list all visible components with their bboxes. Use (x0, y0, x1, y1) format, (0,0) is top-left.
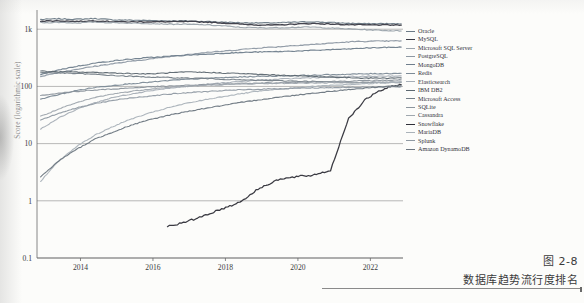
legend-item[interactable]: Oracle (406, 27, 516, 35)
legend-item[interactable]: Microsoft Access (406, 95, 516, 103)
legend-swatch-icon (406, 48, 415, 49)
y-tick-label: 10 (24, 139, 32, 148)
y-tick-label: 0.1 (23, 254, 33, 263)
legend-label: MongoDB (418, 61, 444, 69)
legend-swatch-icon (406, 90, 415, 91)
figure-caption: 图 2-8 数据库趋势流行度排名 (463, 252, 578, 287)
legend-label: Cassandra (418, 111, 443, 119)
legend-label: Amazon DynamoDB (418, 145, 470, 153)
chart-svg: 0.11101001k20142016201820202022 (0, 0, 430, 290)
legend-swatch-icon (406, 64, 415, 65)
legend-swatch-icon (406, 115, 415, 116)
legend-swatch-icon (406, 39, 415, 40)
legend-item[interactable]: MariaDB (406, 128, 516, 136)
legend-label: MariaDB (418, 128, 441, 136)
legend-swatch-icon (406, 149, 415, 150)
figure-number: 图 2-8 (463, 252, 578, 268)
x-tick-label: 2014 (73, 263, 88, 272)
y-tick-label: 100 (21, 82, 33, 91)
series-line (41, 85, 402, 177)
series-line (41, 41, 402, 77)
x-tick-label: 2016 (145, 263, 160, 272)
legend-swatch-icon (406, 140, 415, 141)
legend-label: Snowflake (418, 120, 444, 128)
legend-item[interactable]: PostgreSQL (406, 52, 516, 60)
legend-swatch-icon (406, 107, 415, 108)
legend-item[interactable]: MongoDB (406, 61, 516, 69)
legend-swatch-icon (406, 81, 415, 82)
series-line (41, 82, 402, 182)
series-line (41, 82, 402, 116)
series-line (167, 84, 401, 226)
legend-swatch-icon (406, 124, 415, 125)
x-tick-label: 2022 (363, 263, 378, 272)
legend-item[interactable]: Amazon DynamoDB (406, 145, 516, 153)
legend-label: Microsoft SQL Server (418, 44, 472, 52)
y-tick-label: 1k (24, 25, 32, 34)
legend-label: PostgreSQL (418, 52, 448, 60)
legend-item[interactable]: Redis (406, 69, 516, 77)
legend-label: Splunk (418, 137, 435, 145)
legend-swatch-icon (406, 31, 415, 32)
legend-label: Redis (418, 69, 432, 77)
legend-swatch-icon (406, 56, 415, 57)
database-popularity-chart: 0.11101001k20142016201820202022 Score (l… (0, 0, 430, 290)
legend-label: IBM DB2 (418, 86, 443, 94)
legend-swatch-icon (406, 132, 415, 133)
legend-item[interactable]: Cassandra (406, 111, 516, 119)
legend-swatch-icon (406, 98, 415, 99)
series-line (41, 87, 402, 120)
legend-swatch-icon (406, 73, 415, 74)
x-tick-label: 2018 (218, 263, 233, 272)
legend-item[interactable]: Elasticsearch (406, 78, 516, 86)
legend-item[interactable]: Snowflake (406, 120, 516, 128)
legend-item[interactable]: SQLite (406, 103, 516, 111)
chart-legend: OracleMySQLMicrosoft SQL ServerPostgreSQ… (406, 27, 516, 154)
x-tick-label: 2020 (290, 263, 305, 272)
y-axis-title: Score (logarithmic scale) (14, 38, 22, 162)
legend-label: Oracle (418, 27, 434, 35)
legend-item[interactable]: Splunk (406, 137, 516, 145)
legend-label: MySQL (418, 35, 438, 43)
legend-item[interactable]: IBM DB2 (406, 86, 516, 94)
figure-title: 数据库趋势流行度排名 (463, 271, 578, 287)
legend-item[interactable]: MySQL (406, 35, 516, 43)
footer-rule (322, 288, 580, 289)
legend-label: SQLite (418, 103, 436, 111)
legend-label: Elasticsearch (418, 78, 450, 86)
y-tick-label: 1 (28, 197, 32, 206)
legend-label: Microsoft Access (418, 95, 460, 103)
legend-item[interactable]: Microsoft SQL Server (406, 44, 516, 52)
